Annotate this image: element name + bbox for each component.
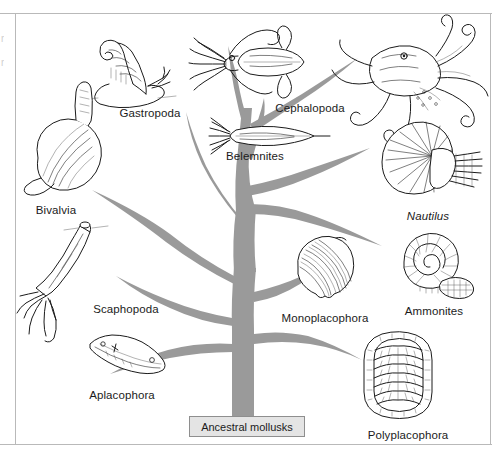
clam-icon (24, 82, 101, 195)
page-edge-fragment-2: r (1, 57, 4, 68)
taxon-label-gastropoda: Gastropoda (119, 108, 180, 120)
taxon-label-cephalopoda: Cephalopoda (275, 103, 345, 115)
taxon-label-aplacophora: Aplacophora (89, 390, 155, 402)
squid-icon (189, 26, 304, 98)
belemnite-icon (209, 118, 330, 154)
tusk-shell-icon (17, 222, 108, 342)
mollusk-phylogeny-figure: .ink { fill: none; stroke: #1b1b1b; stro… (0, 0, 492, 461)
phylogeny-illustration: .ink { fill: none; stroke: #1b1b1b; stro… (0, 0, 492, 461)
taxon-label-polyplacophora: Polyplacophora (368, 430, 449, 442)
page-edge-fragment-1: r (1, 33, 4, 44)
taxon-label-nautilus: Nautilus (407, 211, 449, 223)
ancestral-mollusks-label: Ancestral mollusks (201, 421, 293, 433)
taxon-label-scaphopoda: Scaphopoda (93, 304, 159, 316)
taxon-label-ammonites: Ammonites (405, 306, 463, 318)
taxon-label-bivalvia: Bivalvia (36, 205, 76, 217)
ancestral-mollusks-box: Ancestral mollusks (189, 416, 305, 437)
taxon-label-monoplacophora: Monoplacophora (281, 313, 368, 325)
nautilus-shell-icon (382, 122, 482, 194)
worm-mollusk-icon (90, 335, 165, 374)
snail-icon (86, 40, 176, 107)
taxon-label-belemnites: Belemnites (226, 151, 284, 163)
ammonite-spiral-icon (404, 233, 474, 298)
chiton-icon (364, 332, 432, 419)
cap-shell-icon (298, 236, 354, 297)
